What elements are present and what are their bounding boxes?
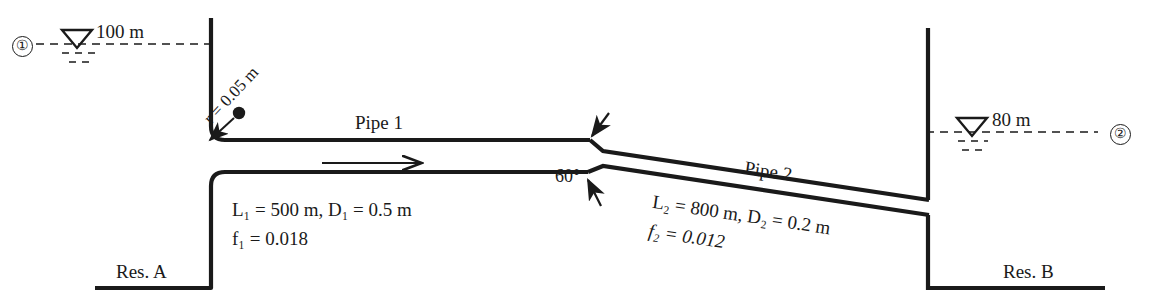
reservoir-b-head-label: 80 m [992,110,1031,129]
reservoir-a-label: Res. A [116,262,167,281]
pipe-system-diagram: ① 100 m 80 m ② r = 0.05 m Pipe 1 L₁ = 50… [0,0,1149,302]
pipe1-bottom-wall-and-res-a-floor [95,172,588,288]
junction-angle-label: 60° [555,167,580,185]
pipe1-length-diameter-label: L₁ = 500 m, D₁ = 0.5 m [232,200,412,219]
contraction-arrow-top [592,113,609,136]
reservoir-b-structure [928,28,1105,288]
contraction-arrow-bottom [588,180,601,206]
reservoir-b-label: Res. B [1003,262,1054,281]
reservoir-a-head-label: 100 m [96,22,144,41]
node-marker-2: ② [1110,122,1131,145]
water-triangle-b [957,118,987,136]
contraction-annotation-arrows [588,113,609,206]
pipe1-name-label: Pipe 1 [355,113,403,132]
water-triangle-a [62,30,92,48]
reservoir-a-structure [95,18,590,288]
radius-dot [233,107,245,119]
pipe1-friction-label: f₁ = 0.018 [232,229,308,248]
node-marker-1: ① [12,34,33,57]
diagram-canvas [0,0,1149,302]
